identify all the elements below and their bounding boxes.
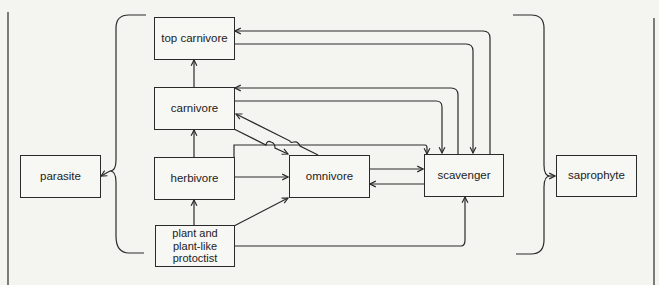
node-label: scavenger <box>437 169 490 183</box>
arrow-plant-to-omnivore <box>234 198 288 226</box>
arrow-top-carnivore-to-scavenger <box>234 44 473 153</box>
node-scavenger: scavenger <box>424 154 504 197</box>
node-top-carnivore: top carnivore <box>154 17 235 60</box>
node-label: carnivore <box>171 102 218 116</box>
node-parasite: parasite <box>20 155 101 198</box>
node-label-line: plant-like <box>173 240 217 253</box>
node-label: herbivore <box>171 172 219 186</box>
node-omnivore: omnivore <box>289 155 370 198</box>
arrow-carnivore-to-omnivore <box>234 129 288 154</box>
node-label: parasite <box>40 170 81 184</box>
left-bracket <box>110 15 146 253</box>
node-label: saprophyte <box>568 169 625 183</box>
arrow-scavenger-to-top-carnivore <box>235 31 490 154</box>
arrow-to-parasite <box>101 171 110 176</box>
node-herbivore: herbivore <box>154 157 235 200</box>
node-label: top carnivore <box>161 32 227 46</box>
node-saprophyte: saprophyte <box>556 155 637 197</box>
right-bracket <box>513 15 550 254</box>
node-label-line: plant and <box>172 227 217 240</box>
node-plant-and-plant-like-protoctist: plant and plant-like protoctist <box>155 225 235 267</box>
arrow-plant-to-scavenger <box>234 197 465 246</box>
arrow-scavenger-to-carnivore <box>235 88 458 154</box>
node-label: omnivore <box>306 170 353 184</box>
node-label-line: protoctist <box>173 252 218 265</box>
food-web-connectors <box>0 0 659 285</box>
node-carnivore: carnivore <box>154 87 235 130</box>
